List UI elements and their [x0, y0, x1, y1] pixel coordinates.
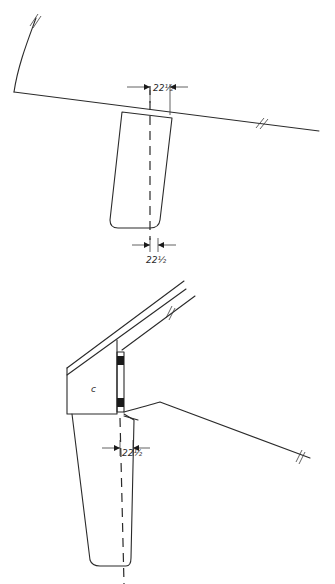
hull-line [14, 92, 319, 131]
side-view: c 22½ [67, 281, 310, 584]
slope-line-outer [67, 281, 184, 368]
dimension-label-bottom: 22½ [146, 255, 166, 265]
arrowhead [144, 242, 150, 248]
black-block-bottom [117, 398, 124, 407]
centerline [120, 418, 124, 584]
hull-line-lower [124, 402, 310, 458]
side-fin-outline [72, 414, 134, 566]
small-mark: c [91, 384, 96, 394]
hull-curve [14, 18, 36, 92]
sketch-canvas: 22½ 22½ c [0, 0, 335, 584]
fin-outline [110, 112, 172, 228]
break-mark [296, 450, 305, 464]
arrowhead [144, 84, 150, 90]
slope-line-lower [122, 296, 195, 350]
black-block-top [117, 356, 124, 365]
break-mark [166, 306, 175, 320]
top-view: 22½ 22½ [14, 14, 319, 265]
dimension-label-top: 22½ [153, 83, 173, 93]
upper-box [67, 340, 117, 414]
arrowhead [114, 445, 120, 451]
slope-line-inner [67, 289, 186, 375]
dimension-label-side: 22½ [122, 448, 142, 458]
break-mark [30, 14, 41, 28]
arrowhead [158, 242, 164, 248]
